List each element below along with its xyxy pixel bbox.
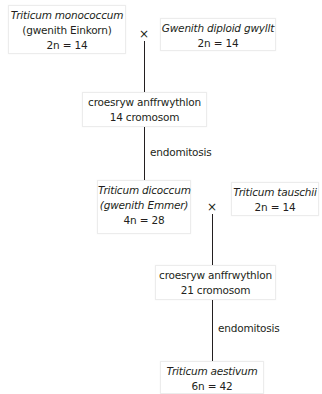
species-name: Triticum aestivum — [161, 364, 263, 379]
chromosome-count: 21 cromosom — [156, 283, 275, 298]
cross-symbol: × — [138, 28, 150, 40]
chromosome-count: 14 cromosom — [83, 110, 206, 125]
node-triticum-aestivum: Triticum aestivum 6n = 42 — [160, 361, 264, 394]
hybrid-label: croesryw anffrwythlon — [83, 95, 206, 110]
node-sterile-hybrid-21: croesryw anffrwythlon 21 cromosom — [155, 265, 276, 300]
species-name: Gwenith diploid gwyllt — [161, 21, 275, 36]
node-wild-diploid-wheat: Gwenith diploid gwyllt 2n = 14 — [160, 18, 276, 51]
node-triticum-dicoccum: Triticum dicoccum (gwenith Emmer) 4n = 2… — [97, 180, 191, 234]
process-label-endomitosis: endomitosis — [150, 145, 212, 159]
common-name: (gwenith Einkorn) — [9, 23, 125, 38]
process-label-endomitosis: endomitosis — [218, 321, 280, 335]
connector-line — [144, 41, 146, 93]
node-triticum-tauschii: Triticum tauschii 2n = 14 — [231, 182, 319, 216]
hybrid-label: croesryw anffrwythlon — [156, 268, 275, 283]
common-name: (gwenith Emmer) — [98, 198, 190, 213]
ploidy: 6n = 42 — [161, 379, 263, 394]
ploidy: 2n = 14 — [232, 200, 318, 215]
node-sterile-hybrid-14: croesryw anffrwythlon 14 cromosom — [82, 92, 207, 127]
ploidy: 4n = 28 — [98, 213, 190, 228]
ploidy: 2n = 14 — [9, 38, 125, 53]
node-triticum-monococcum: Triticum monococcum (gwenith Einkorn) 2n… — [8, 5, 126, 54]
ploidy: 2n = 14 — [161, 36, 275, 51]
cross-symbol: × — [206, 201, 218, 213]
connector-line — [212, 300, 214, 361]
connector-line — [212, 214, 214, 266]
species-name: Triticum monococcum — [9, 8, 125, 23]
connector-line — [144, 127, 146, 181]
species-name: Triticum dicoccum — [98, 183, 190, 198]
species-name: Triticum tauschii — [232, 185, 318, 200]
